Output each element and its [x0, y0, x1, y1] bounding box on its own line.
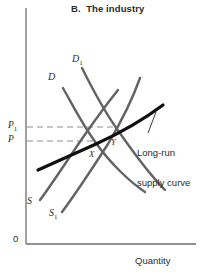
- price-label-p1: P1: [8, 120, 17, 133]
- origin-label: 0: [13, 234, 18, 244]
- point-label-x: X: [89, 150, 94, 159]
- curve-label-supply: S: [27, 196, 32, 207]
- price-label-p1-sub: 1: [14, 125, 18, 133]
- price-label-p: P: [8, 134, 14, 144]
- x-axis-label: Quantity: [135, 256, 170, 266]
- long-run-supply-annotation: Long-run supply curve: [137, 127, 190, 209]
- point-label-y: Y: [111, 138, 116, 147]
- long-run-annotation-line2: supply curve: [137, 178, 190, 188]
- curve-label-demand-shifted: D1: [72, 54, 83, 68]
- figure-title: B. The industry: [71, 4, 144, 14]
- curve-label-supply-shifted: S1: [49, 208, 58, 222]
- economics-figure: B. The industry D D1 S S1 X Y P1 P 0 Qua…: [0, 0, 209, 280]
- long-run-annotation-line1: Long-run: [137, 148, 190, 158]
- curve-label-demand: D: [48, 72, 55, 83]
- curve-label-demand-shifted-sub: 1: [79, 59, 83, 67]
- curve-label-supply-shifted-sub: 1: [54, 213, 58, 221]
